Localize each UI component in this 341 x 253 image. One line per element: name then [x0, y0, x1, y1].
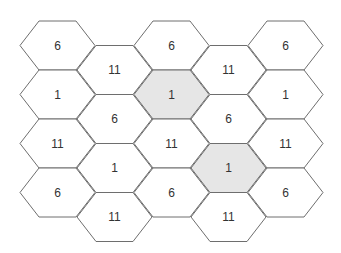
channel-label: 11 [222, 210, 235, 224]
channel-label: 11 [279, 137, 292, 151]
channel-label: 6 [54, 186, 61, 200]
channel-label: 6 [54, 39, 61, 53]
channel-label: 11 [108, 63, 121, 77]
channel-label: 6 [168, 39, 175, 53]
hex-grid-canvas: 611161161116111611611161116 [0, 0, 341, 253]
channel-label: 11 [222, 63, 235, 77]
channel-label: 6 [225, 112, 232, 126]
channel-label: 11 [165, 137, 178, 151]
channel-label: 6 [168, 186, 175, 200]
channel-label: 1 [111, 161, 118, 175]
channel-label: 6 [282, 39, 289, 53]
channel-label: 1 [282, 88, 289, 102]
channel-label: 11 [108, 210, 121, 224]
channel-label: 6 [111, 112, 118, 126]
hex-channel-grid: 611161161116111611611161116 [0, 0, 341, 253]
channel-label: 11 [51, 137, 64, 151]
channel-label: 1 [54, 88, 61, 102]
channel-label: 1 [168, 88, 175, 102]
channel-label: 1 [225, 161, 232, 175]
channel-label: 6 [282, 186, 289, 200]
